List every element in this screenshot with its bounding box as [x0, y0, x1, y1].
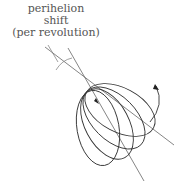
orbit-4	[71, 87, 126, 169]
orbit-3	[70, 80, 145, 168]
orbit-2	[72, 76, 157, 161]
orbits	[70, 73, 164, 169]
shift-angle-arc	[56, 58, 72, 70]
perihelion-axis-2	[68, 48, 144, 181]
label-pointer	[48, 45, 58, 62]
rotation-arrowhead-icon	[153, 84, 159, 90]
perihelion-axis-1	[45, 47, 174, 145]
orbit-diagram	[0, 0, 180, 193]
